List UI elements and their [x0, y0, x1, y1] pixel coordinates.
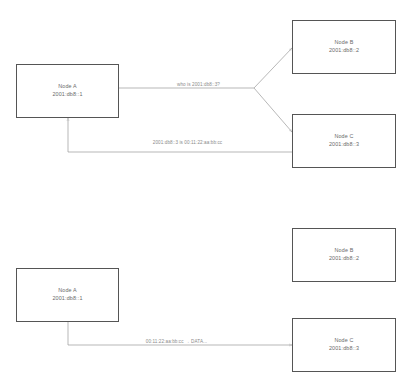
- network-diagram-canvas: Node A 2001:db8::1 Node B 2001:db8::2 No…: [0, 0, 417, 388]
- node-box-a-data[interactable]: Node A 2001:db8::1: [16, 268, 119, 322]
- node-a-name-discovery: Node A: [58, 83, 77, 91]
- node-b-name-data: Node B: [335, 247, 354, 255]
- node-box-b-data[interactable]: Node B 2001:db8::2: [292, 228, 396, 282]
- node-a-name-data: Node A: [58, 287, 77, 295]
- node-a-address-data: 2001:db8::1: [52, 295, 82, 303]
- wire-solicitation-to-node-b: [254, 48, 292, 88]
- node-box-a-discovery[interactable]: Node A 2001:db8::1: [16, 64, 119, 118]
- node-c-address-discovery: 2001:db8::3: [329, 141, 359, 149]
- node-c-address-data: 2001:db8::3: [329, 345, 359, 353]
- node-b-address-data: 2001:db8::2: [329, 255, 359, 263]
- node-box-c-data[interactable]: Node C 2001:db8::3: [292, 318, 396, 372]
- node-c-name-discovery: Node C: [334, 133, 353, 141]
- wire-advertisement-reply: [68, 118, 292, 152]
- edge-label-data: 00:11:22:aa:bb:cc → DATA...: [122, 339, 231, 344]
- node-box-b-discovery[interactable]: Node B 2001:db8::2: [292, 20, 396, 74]
- node-c-name-data: Node C: [334, 337, 353, 345]
- edge-label-advertisement: 2001:db8::3 is 00:11:22:aa:bb:cc: [131, 140, 244, 145]
- edge-label-solicitation: who is 2001:db8::3?: [160, 82, 237, 87]
- node-a-address-discovery: 2001:db8::1: [52, 91, 82, 99]
- wire-solicitation-to-node-c: [254, 88, 292, 132]
- node-b-address-discovery: 2001:db8::2: [329, 47, 359, 55]
- node-b-name-discovery: Node B: [335, 39, 354, 47]
- node-box-c-discovery[interactable]: Node C 2001:db8::3: [292, 114, 396, 168]
